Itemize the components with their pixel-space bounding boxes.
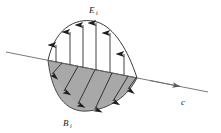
em-wave-figure: E i B i c xyxy=(0,0,221,133)
propagation-speed-label: c xyxy=(181,97,185,107)
figure-background xyxy=(0,0,221,133)
e-field-label: E xyxy=(88,5,95,15)
b-field-label: B xyxy=(63,118,69,128)
em-wave-diagram: E i B i c xyxy=(0,0,221,133)
